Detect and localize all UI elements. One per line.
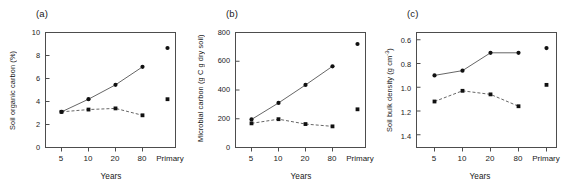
x-tick-label-b-10: 10 bbox=[274, 154, 283, 163]
x-axis-title-b: Years bbox=[206, 172, 396, 181]
x-tick-label-a-primary: Primary bbox=[156, 154, 184, 163]
x-tick-label-c-5: 5 bbox=[432, 154, 436, 163]
series-solid-c bbox=[435, 53, 519, 76]
plot-area-c bbox=[379, 0, 569, 194]
x-axis-title-a: Years bbox=[16, 172, 206, 181]
figure-root: (a) Soil organic carbon (%) 10 8 6 4 2 0 bbox=[0, 0, 569, 194]
x-tick-label-c-primary: Primary bbox=[532, 154, 560, 163]
x-tick-label-a-80: 80 bbox=[138, 154, 147, 163]
x-tick-label-b-20: 20 bbox=[301, 154, 310, 163]
markers-dashed-a bbox=[60, 97, 170, 117]
x-tick-label-c-10: 10 bbox=[458, 154, 467, 163]
x-tick-label-a-5: 5 bbox=[59, 154, 63, 163]
series-solid-a bbox=[62, 67, 143, 112]
series-dashed-a bbox=[62, 108, 143, 115]
x-tick-label-b-primary: Primary bbox=[346, 154, 374, 163]
x-tick-label-a-10: 10 bbox=[84, 154, 93, 163]
panel-c: (c) Soil bulk density (g cm-3) 0.6 0.8 1… bbox=[379, 0, 569, 194]
markers-solid-a bbox=[59, 46, 169, 114]
series-dashed-c bbox=[435, 91, 519, 106]
series-dashed-b bbox=[252, 119, 333, 126]
x-axis-title-c: Years bbox=[385, 172, 569, 181]
x-tick-label-a-20: 20 bbox=[111, 154, 120, 163]
markers-solid-b bbox=[249, 42, 359, 122]
x-tick-label-c-80: 80 bbox=[514, 154, 523, 163]
plot-area-a bbox=[0, 0, 190, 194]
x-tick-label-c-20: 20 bbox=[486, 154, 495, 163]
panel-b: (b) Microbial carbon (g C g dry soil) 80… bbox=[190, 0, 380, 194]
panel-a: (a) Soil organic carbon (%) 10 8 6 4 2 0 bbox=[0, 0, 190, 194]
series-solid-b bbox=[252, 66, 333, 119]
x-tick-label-b-80: 80 bbox=[328, 154, 337, 163]
plot-area-b bbox=[190, 0, 380, 194]
x-tick-label-b-5: 5 bbox=[249, 154, 253, 163]
